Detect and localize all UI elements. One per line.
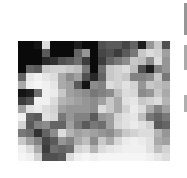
pixel-block	[82, 65, 90, 73]
pixel-block	[114, 89, 122, 97]
pixel-block	[74, 145, 82, 153]
pixel-block	[146, 113, 154, 121]
pixel-block	[162, 49, 170, 57]
pixel-block	[162, 137, 170, 145]
pixel-block	[114, 129, 122, 137]
pixel-block	[122, 97, 130, 105]
pixel-block	[146, 73, 154, 81]
pixel-block	[42, 121, 50, 129]
pixelated-image	[18, 41, 170, 161]
pixel-block	[42, 57, 50, 65]
pixel-block	[50, 97, 58, 105]
pixel-block	[90, 81, 98, 89]
pixel-block	[74, 57, 82, 65]
pixel-block	[74, 129, 82, 137]
pixel-block	[26, 49, 34, 57]
pixel-block	[138, 121, 146, 129]
pixel-block	[130, 129, 138, 137]
pixel-block	[82, 105, 90, 113]
pixel-block	[50, 57, 58, 65]
pixel-block	[130, 121, 138, 129]
pixel-block	[82, 41, 90, 49]
pixel-block	[50, 89, 58, 97]
pixel-block	[146, 65, 154, 73]
pixel-block	[90, 89, 98, 97]
pixel-block	[66, 137, 74, 145]
pixel-block	[74, 153, 82, 161]
pixel-block	[66, 73, 74, 81]
pixel-block	[74, 41, 82, 49]
pixel-block	[162, 105, 170, 113]
pixel-block	[26, 97, 34, 105]
pixel-block	[58, 113, 66, 121]
pixel-block	[50, 41, 58, 49]
pixel-block	[26, 129, 34, 137]
pixel-block	[130, 113, 138, 121]
pixel-block	[18, 81, 26, 89]
pixel-block	[162, 145, 170, 153]
pixel-block	[34, 145, 42, 153]
pixel-block	[82, 113, 90, 121]
pixel-block	[114, 73, 122, 81]
pixel-block	[18, 65, 26, 73]
pixel-block	[50, 105, 58, 113]
pixel-block	[106, 153, 114, 161]
pixel-block	[146, 105, 154, 113]
pixel-block	[114, 81, 122, 89]
pixel-block	[138, 145, 146, 153]
pixel-block	[18, 89, 26, 97]
edge-strip	[184, 0, 187, 178]
pixel-block	[18, 113, 26, 121]
pixel-block	[50, 49, 58, 57]
pixel-block	[90, 97, 98, 105]
pixel-block	[26, 113, 34, 121]
pixel-block	[34, 73, 42, 81]
pixel-block	[122, 113, 130, 121]
pixel-block	[58, 89, 66, 97]
pixel-block	[90, 121, 98, 129]
pixel-block	[18, 153, 26, 161]
pixel-block	[106, 89, 114, 97]
pixel-block	[98, 137, 106, 145]
pixel-block	[114, 121, 122, 129]
pixel-block	[50, 145, 58, 153]
pixel-block	[146, 137, 154, 145]
pixel-block	[98, 153, 106, 161]
pixel-block	[114, 153, 122, 161]
pixel-block	[82, 137, 90, 145]
pixel-block	[138, 105, 146, 113]
pixel-block	[34, 153, 42, 161]
pixel-block	[146, 89, 154, 97]
pixel-block	[50, 73, 58, 81]
pixel-block	[146, 49, 154, 57]
pixel-block	[106, 113, 114, 121]
pixel-block	[90, 137, 98, 145]
pixel-block	[122, 153, 130, 161]
pixel-block	[122, 121, 130, 129]
pixel-block	[66, 97, 74, 105]
pixel-block	[122, 41, 130, 49]
pixel-block	[130, 57, 138, 65]
pixel-block	[74, 81, 82, 89]
pixel-block	[26, 89, 34, 97]
pixel-block	[106, 121, 114, 129]
pixel-block	[74, 97, 82, 105]
pixel-block	[90, 49, 98, 57]
pixel-block	[82, 57, 90, 65]
pixel-block	[82, 73, 90, 81]
pixel-block	[66, 121, 74, 129]
pixel-block	[98, 145, 106, 153]
pixel-block	[58, 145, 66, 153]
pixel-block	[58, 41, 66, 49]
pixel-block	[66, 65, 74, 73]
pixel-block	[18, 57, 26, 65]
pixel-block	[154, 73, 162, 81]
pixel-block	[106, 137, 114, 145]
pixel-block	[106, 97, 114, 105]
pixel-block	[90, 145, 98, 153]
pixel-block	[154, 49, 162, 57]
pixel-block	[106, 41, 114, 49]
edge-strip-segment	[184, 3, 187, 35]
pixel-block	[34, 121, 42, 129]
pixel-block	[162, 41, 170, 49]
